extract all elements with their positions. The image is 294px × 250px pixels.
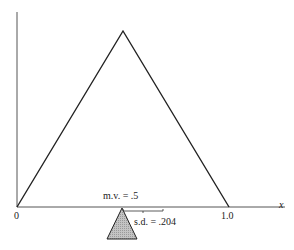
mean-value-label: m.v. = .5 bbox=[103, 191, 138, 201]
x-axis-label: x bbox=[279, 200, 283, 210]
std-dev-label: s.d. = .204 bbox=[134, 217, 176, 227]
mean-value-fulcrum bbox=[107, 208, 137, 239]
std-dev-bracket bbox=[123, 209, 163, 213]
triangular-density-curve bbox=[17, 31, 229, 207]
origin-label: 0 bbox=[14, 211, 19, 221]
x-max-label: 1.0 bbox=[221, 211, 234, 221]
diagram-canvas bbox=[0, 0, 294, 250]
